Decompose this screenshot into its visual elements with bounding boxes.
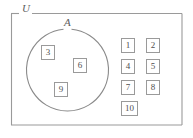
element-tile-outside-a: 7 — [121, 80, 135, 95]
set-a-label: A — [63, 17, 72, 28]
element-tile-in-a: 9 — [54, 82, 68, 97]
element-tile-outside-a: 2 — [146, 38, 160, 53]
set-diagram-canvas: U A 3 6 9 1 2 4 5 7 8 10 — [0, 0, 193, 138]
diagram-vector-layer — [0, 0, 193, 138]
element-tile-in-a: 6 — [73, 58, 87, 73]
element-tile-outside-a: 10 — [121, 101, 138, 116]
element-tile-in-a: 3 — [41, 45, 55, 60]
set-a-arc — [26, 29, 108, 111]
universal-set-label: U — [21, 3, 31, 14]
element-tile-outside-a: 5 — [146, 59, 160, 74]
element-tile-outside-a: 1 — [121, 38, 135, 53]
element-tile-outside-a: 4 — [121, 59, 135, 74]
set-a-circle — [26, 29, 108, 111]
element-tile-outside-a: 8 — [146, 80, 160, 95]
